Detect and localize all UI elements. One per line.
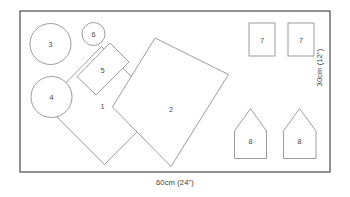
piece-8-left-label: 8	[248, 137, 252, 146]
piece-4-label: 4	[49, 93, 53, 102]
piece-7-right-label: 7	[299, 36, 303, 45]
piece-5-label: 5	[100, 66, 104, 75]
piece-1-label: 1	[100, 102, 104, 111]
piece-8-right-label: 8	[297, 137, 301, 146]
pieces-group	[30, 23, 316, 167]
cutting-layout-svg: 1234567788	[0, 0, 350, 197]
piece-2	[113, 38, 229, 167]
piece-2-label: 2	[169, 105, 173, 114]
diagram-canvas: 1234567788 60cm (24") 30cm (12")	[0, 0, 350, 197]
piece-8-left	[235, 109, 267, 159]
dimension-label-width: 60cm (24")	[0, 178, 350, 187]
dimension-label-height: 30cm (12")	[315, 49, 324, 87]
piece-6-label: 6	[91, 30, 95, 39]
piece-3-label: 3	[48, 40, 52, 49]
piece-7-left-label: 7	[260, 36, 264, 45]
piece-8-right	[284, 109, 317, 159]
